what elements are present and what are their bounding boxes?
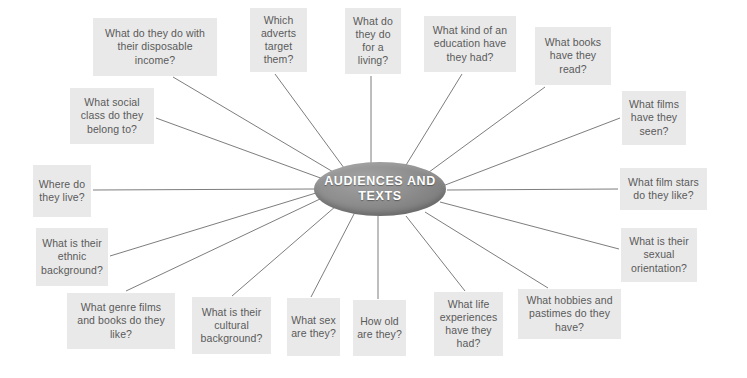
question-box-genre-films-books: What genre films and books do they like? [67, 293, 175, 349]
connector-social-class [156, 118, 326, 180]
question-box-label: What social class do they belong to? [74, 96, 150, 136]
question-box-living: What do they do for a living? [345, 8, 401, 74]
connector-disposable-income [173, 77, 340, 176]
connector-film-stars [447, 189, 618, 190]
question-box-label: What is their ethnic background? [40, 237, 104, 277]
question-box-adverts-target: Which adverts target them? [250, 8, 307, 72]
connector-adverts-target [275, 74, 347, 172]
question-box-label: What is their cultural background? [196, 306, 267, 346]
question-box-label: What sex are they? [291, 314, 336, 340]
connector-films-seen [440, 118, 620, 187]
question-box-label: What do they do for a living? [349, 15, 397, 68]
question-box-cultural-background: What is their cultural background? [192, 297, 271, 354]
question-box-life-experiences: What life experiences have they had? [434, 292, 503, 356]
question-box-label: What kind of an education have they had? [428, 24, 512, 64]
question-box-sex: What sex are they? [287, 298, 340, 356]
question-box-sexual-orientation: What is their sexual orientation? [621, 228, 697, 282]
question-box-disposable-income: What do they do with their disposable in… [93, 18, 217, 76]
center-node-audiences-and-texts: AUDIENCES AND TEXTS [314, 162, 446, 216]
connector-genre-films-books [126, 199, 320, 291]
question-box-education: What kind of an education have they had? [424, 16, 516, 72]
question-box-label: What is their sexual orientation? [625, 235, 693, 275]
connector-sex [311, 214, 354, 297]
center-node-label: AUDIENCES AND TEXTS [314, 174, 446, 204]
connector-education [403, 74, 462, 170]
question-box-films-seen: What films have they seen? [622, 91, 686, 145]
question-box-where-live: Where do they live? [33, 165, 91, 217]
question-box-label: How old are they? [357, 315, 402, 341]
question-box-label: Which adverts target them? [254, 14, 303, 67]
question-box-label: What film stars do they like? [624, 176, 703, 202]
question-box-label: What genre films and books do they like? [71, 301, 171, 341]
connector-life-experiences [406, 216, 465, 291]
center-label-line-1: AUDIENCES [324, 174, 403, 188]
spider-diagram-canvas: AUDIENCES AND TEXTS What do they do with… [0, 0, 747, 378]
question-box-how-old: How old are they? [353, 300, 406, 356]
connector-cultural-background [232, 206, 336, 296]
question-box-social-class: What social class do they belong to? [70, 88, 154, 144]
connector-books-read [425, 87, 545, 175]
connector-sexual-orientation [440, 202, 619, 249]
question-box-label: What films have they seen? [626, 98, 682, 138]
question-box-ethnic-background: What is their ethnic background? [36, 228, 108, 286]
question-box-label: Where do they live? [37, 178, 87, 204]
question-box-label: What do they do with their disposable in… [97, 27, 213, 67]
question-box-label: What hobbies and pastimes do they have? [522, 294, 617, 334]
connector-ethnic-background [110, 193, 316, 256]
connector-where-live [93, 189, 314, 190]
question-box-label: What books have they read? [539, 36, 607, 76]
question-box-hobbies-pastimes: What hobbies and pastimes do they have? [518, 289, 621, 339]
connector-hobbies-pastimes [425, 212, 548, 288]
question-box-label: What life experiences have they had? [438, 298, 499, 351]
question-box-books-read: What books have they read? [535, 27, 611, 85]
question-box-film-stars: What film stars do they like? [620, 168, 707, 210]
